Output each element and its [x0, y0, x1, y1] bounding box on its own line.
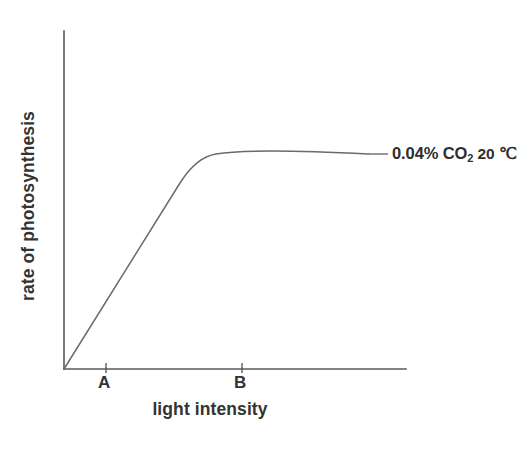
x-axis-label: light intensity: [0, 399, 420, 420]
y-axis-label-container: rate of photosynthesis: [0, 96, 56, 316]
series-annotation-label: 0.04% CO2 20 ℃: [392, 144, 517, 163]
series-curve-0: [64, 151, 368, 369]
series-annotation-prefix: 0.04% CO: [392, 144, 467, 162]
y-axis-label: rate of photosynthesis: [18, 111, 39, 301]
x-tick-label-a: A: [98, 373, 110, 393]
series-annotation-suffix: 20 ℃: [473, 145, 516, 162]
x-tick-label-b: B: [234, 373, 246, 393]
series-annotation-subscript: 2: [467, 152, 473, 164]
